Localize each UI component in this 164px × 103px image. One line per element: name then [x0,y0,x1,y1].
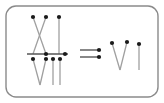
figure-frame [6,6,158,97]
node-dot [44,57,48,61]
node-dot [51,57,55,61]
node-dot [57,15,61,19]
node-dot [63,52,67,56]
node-dot [125,40,129,44]
node-dot [44,15,48,19]
node-dot [137,42,141,46]
figure-container [0,0,164,103]
node-dot [110,41,114,45]
diagram-canvas [0,0,164,103]
node-dot [31,15,35,19]
node-dot [58,57,62,61]
node-dot [31,57,35,61]
node-dot [97,48,101,52]
node-dot [97,55,101,59]
node-dot [44,52,48,56]
